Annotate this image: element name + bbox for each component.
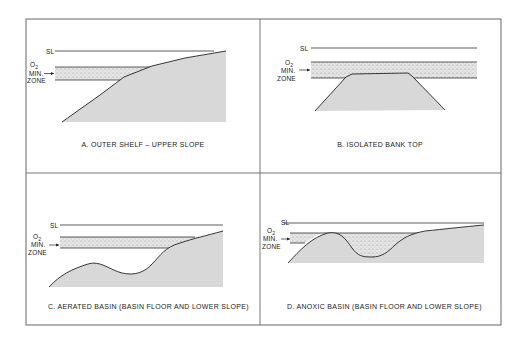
panel-d-caption: D. ANOXIC BASIN (BASIN FLOOR AND LOWER S… [287,303,482,311]
panel-d-anoxic-basin: SL O2 MIN. ZONE D. ANOXIC BASIN (BASIN F… [262,219,484,311]
sl-label: SL [281,219,290,226]
min-label: MIN. [263,235,278,242]
sl-label: SL [46,48,55,55]
panel-c-aerated-basin: SL O2 MIN. ZONE C. AERATED BASIN (BASIN … [28,222,249,312]
bank-profile [315,73,445,111]
min-label: MIN. [281,67,296,74]
min-label: MIN. [31,241,46,248]
sl-label: SL [300,45,309,52]
zone-label: ZONE [28,249,47,256]
panel-a-outer-shelf: SL O2 MIN. ZONE A. OUTER SHELF – UPPER S… [27,48,226,149]
panel-b-isolated-bank: SL O2 MIN. ZONE B. ISOLATED BANK TOP [277,45,477,149]
zone-label: ZONE [27,77,46,84]
oxygen-minimum-zone-diagram: SL O2 MIN. ZONE A. OUTER SHELF – UPPER S… [0,0,523,347]
panel-b-caption: B. ISOLATED BANK TOP [337,141,423,148]
panel-c-caption: C. AERATED BASIN (BASIN FLOOR AND LOWER … [48,303,249,311]
o2-label: O2 [30,61,38,70]
zone-label: ZONE [262,243,281,250]
min-label: MIN. [29,70,44,77]
panel-a-caption: A. OUTER SHELF – UPPER SLOPE [81,141,204,148]
seafloor-profile [62,51,226,122]
zone-label: ZONE [277,75,296,82]
sl-label: SL [50,222,59,229]
